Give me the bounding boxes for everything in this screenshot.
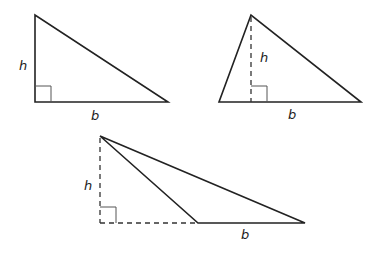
right-angle-marker	[100, 207, 116, 223]
acute-triangle-outline	[219, 15, 361, 102]
base-label: b	[241, 227, 249, 242]
height-label: h	[84, 178, 92, 193]
obtuse-triangle-outline	[100, 136, 305, 223]
height-label: h	[260, 50, 268, 65]
obtuse-triangle: h b	[84, 136, 305, 242]
triangle-diagram: h b h b h b	[0, 0, 378, 253]
base-label: b	[288, 107, 296, 122]
right-angle-marker	[251, 86, 267, 102]
base-label: b	[91, 108, 99, 123]
height-label: h	[19, 58, 27, 73]
right-angle-marker	[35, 86, 51, 102]
right-triangle: h b	[19, 15, 168, 123]
right-triangle-outline	[35, 15, 168, 102]
acute-triangle: h b	[219, 15, 361, 122]
